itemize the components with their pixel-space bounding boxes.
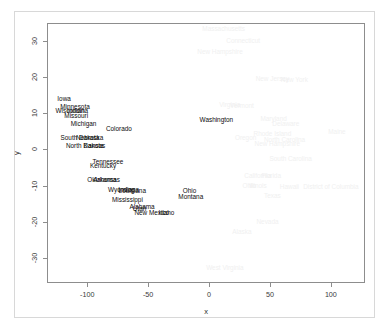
y-tick-label: -30 — [30, 253, 39, 263]
data-point-label: Kansas — [84, 142, 105, 149]
data-point-label: Virginia — [219, 101, 240, 108]
y-tick-label: 10 — [30, 109, 39, 117]
data-point-label: Missouri — [64, 111, 88, 118]
scatter-plot-figure: MassachusettsConnecticutNew HampshireNew… — [0, 0, 389, 336]
data-point-label: West Virginia — [206, 263, 243, 270]
y-tick-label: 0 — [30, 147, 39, 151]
y-tick-mark — [43, 149, 47, 150]
data-point-label: Delaware — [272, 120, 299, 127]
x-tick-mark — [270, 283, 271, 287]
data-point-label: New York — [281, 75, 308, 82]
y-tick-mark — [43, 113, 47, 114]
data-point-label: Louisiana — [119, 186, 146, 193]
data-point-label: New Hampshire — [197, 48, 242, 55]
y-tick-mark — [43, 222, 47, 223]
data-point-label: Oregon — [235, 133, 256, 140]
data-point-label: Washington — [200, 116, 234, 123]
x-tick-mark — [148, 283, 149, 287]
y-tick-label: 20 — [30, 73, 39, 81]
y-axis-title: y — [12, 151, 21, 155]
data-point-label: Hawaii — [280, 182, 299, 189]
data-point-label: Arkansas — [93, 176, 120, 183]
data-point-label: Montana — [178, 193, 203, 200]
data-point-label: District of Columbia — [303, 182, 358, 189]
data-point-label: Maine — [328, 128, 345, 135]
data-point-label: Michigan — [71, 120, 97, 127]
data-point-label: Massachusetts — [202, 25, 245, 32]
y-tick-mark — [43, 258, 47, 259]
data-point-label: Texas — [264, 191, 281, 198]
x-tick-mark — [209, 283, 210, 287]
data-point-label: Colorado — [106, 124, 132, 131]
y-tick-mark — [43, 41, 47, 42]
y-tick-label: -20 — [30, 216, 39, 226]
y-tick-mark — [43, 77, 47, 78]
x-tick-mark — [87, 283, 88, 287]
x-tick-label: -50 — [143, 290, 153, 299]
x-tick-label: 100 — [325, 290, 337, 299]
data-point-label: Connecticut — [226, 37, 260, 44]
data-point-label: Florida — [261, 171, 281, 178]
data-point-label: Nebraska — [76, 134, 103, 141]
data-point-label: Alaska — [232, 228, 251, 235]
x-axis-title: x — [204, 307, 208, 316]
data-point-label: New Hampshire — [255, 139, 300, 146]
y-tick-label: 30 — [30, 37, 39, 45]
data-point-label: Idaho — [158, 208, 174, 215]
y-tick-label: -10 — [30, 180, 39, 190]
plot-data-area: MassachusettsConnecticutNew HampshireNew… — [47, 23, 365, 283]
x-tick-mark — [331, 283, 332, 287]
data-point-label: Nevada — [257, 217, 279, 224]
x-tick-label: 50 — [266, 290, 274, 299]
y-tick-mark — [43, 186, 47, 187]
data-point-label: Iowa — [57, 95, 71, 102]
x-tick-label: -100 — [80, 290, 94, 299]
data-point-label: Mississippi — [112, 195, 143, 202]
data-point-label: Kentucky — [90, 161, 116, 168]
data-point-label: South Carolina — [270, 155, 312, 162]
x-tick-label: 0 — [207, 290, 211, 299]
data-point-label: Illinois — [249, 181, 267, 188]
